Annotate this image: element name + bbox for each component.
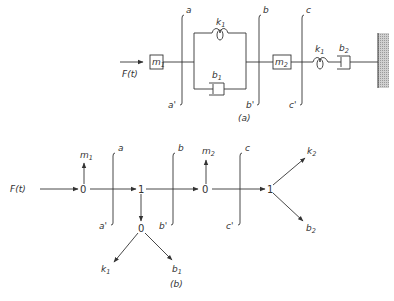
cut-a-b: a a' (99, 143, 124, 231)
svg-text:b: b (263, 5, 269, 15)
svg-text:k2: k2 (307, 146, 316, 158)
mass-2-block: m2 (273, 55, 291, 69)
junction-0-kb: 0 (138, 223, 144, 234)
junction-1-series: 1 (267, 184, 273, 195)
svg-text:a': a' (99, 221, 107, 231)
damper-icon (337, 56, 350, 69)
cut-c-b: c c' (226, 143, 250, 231)
force-arrow: F(t) (120, 62, 143, 79)
svg-text:b2: b2 (339, 43, 349, 55)
parallel-spring-damper: k1 b1 (194, 17, 246, 95)
fixed-wall (378, 33, 389, 88)
cut-a: a a' (168, 5, 192, 110)
svg-text:k1: k1 (101, 264, 110, 276)
spring-2: k1 (313, 44, 328, 69)
svg-text:c: c (306, 5, 311, 15)
svg-text:a: a (186, 5, 192, 15)
svg-text:b1: b1 (212, 70, 222, 82)
svg-text:c': c' (289, 100, 296, 110)
junction-0-m2: 0 (202, 184, 208, 195)
figure-a: F(t) m1 k1 b1 (120, 5, 389, 123)
svg-text:m2: m2 (275, 57, 288, 69)
junction-0-m1: 0 (80, 184, 86, 195)
damper-2: b2 (337, 43, 350, 69)
svg-text:c: c (245, 143, 250, 153)
cut-c: c c' (289, 5, 311, 110)
svg-text:m1: m1 (80, 150, 93, 162)
source-label: F(t) (10, 184, 26, 194)
caption-b: (b) (170, 279, 183, 289)
junction-1-parallel: 1 (138, 184, 144, 195)
svg-text:b': b' (159, 221, 167, 231)
svg-text:b2: b2 (306, 223, 316, 235)
svg-text:a': a' (168, 100, 176, 110)
svg-text:k1: k1 (216, 17, 225, 29)
svg-text:b': b' (246, 100, 254, 110)
svg-text:k1: k1 (315, 44, 324, 56)
svg-text:b: b (178, 143, 184, 153)
cut-b: b b' (246, 5, 269, 110)
cut-b-b: b b' (159, 143, 184, 231)
force-label: F(t) (122, 69, 138, 79)
caption-a: (a) (238, 113, 251, 123)
figure-b: F(t) 0 m1 1 0 k1 b1 0 m2 1 k2 b2 a a' (10, 143, 316, 289)
mass-1-block: m1 (150, 55, 165, 69)
svg-text:c': c' (226, 221, 233, 231)
svg-text:a: a (118, 143, 124, 153)
mechanical-system-diagram: F(t) m1 k1 b1 (0, 0, 394, 301)
svg-text:m2: m2 (202, 146, 215, 158)
spring-k1-coil (212, 29, 228, 34)
svg-text:b1: b1 (172, 264, 182, 276)
